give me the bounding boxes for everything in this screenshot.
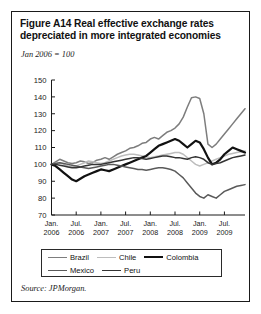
legend-swatch-peru <box>102 270 121 271</box>
legend-swatch-chile <box>97 257 116 258</box>
figure-title-line-2: depreciated in more integrated economies <box>20 30 242 42</box>
legend-item-chile[interactable]: Chile <box>97 253 136 262</box>
x-tick-label-month: Jul. <box>219 219 230 228</box>
chart-plot-area: 708090100110120130140150 Jan.2006Jul.200… <box>12 62 251 242</box>
x-tick-label-month: Jan. <box>94 219 108 228</box>
legend-swatch-colombia <box>144 256 163 258</box>
y-tick-label: 150 <box>34 76 47 85</box>
line-chart-svg: 708090100110120130140150 Jan.2006Jul.200… <box>12 62 251 242</box>
legend-item-colombia[interactable]: Colombia <box>144 253 198 262</box>
legend-item-brazil[interactable]: Brazil <box>48 253 89 262</box>
legend-row: BrazilChileColombia <box>42 251 221 264</box>
x-tick-label-month: Jul. <box>169 219 180 228</box>
legend-label: Colombia <box>166 253 198 262</box>
x-tick-label-year: 2008 <box>167 228 183 237</box>
y-axis-tick-marks <box>52 80 56 215</box>
chart-legend: BrazilChileColombiaMexicoPeru <box>41 249 222 277</box>
x-tick-label-year: 2006 <box>44 228 60 237</box>
figure-title-line-1: Figure A14 Real effective exchange rates <box>20 18 214 29</box>
x-tick-label-year: 2008 <box>142 228 158 237</box>
legend-row: MexicoPeru <box>42 264 221 277</box>
y-tick-label: 130 <box>34 110 47 119</box>
x-tick-label-month: Jan. <box>193 219 207 228</box>
y-tick-label: 110 <box>34 143 46 152</box>
x-tick-label-month: Jul. <box>71 219 82 228</box>
chart-series-group <box>52 97 246 198</box>
x-axis-tick-marks <box>52 212 225 216</box>
y-tick-label: 80 <box>38 194 46 203</box>
x-tick-label-year: 2009 <box>216 228 232 237</box>
series-line-mexico <box>52 163 246 198</box>
x-tick-label-year: 2009 <box>192 228 208 237</box>
x-tick-label-year: 2007 <box>93 228 109 237</box>
y-tick-label: 100 <box>34 160 47 169</box>
legend-label: Brazil <box>70 253 89 262</box>
y-tick-label: 140 <box>34 93 47 102</box>
x-tick-label-month: Jan. <box>144 219 158 228</box>
x-axis-tick-labels: Jan.2006Jul.2006Jan.2007Jul.2007Jan.2008… <box>44 219 233 237</box>
y-axis-tick-labels: 708090100110120130140150 <box>34 76 47 220</box>
y-tick-label: 120 <box>34 126 47 135</box>
legend-label: Chile <box>119 253 136 262</box>
y-tick-label: 90 <box>38 177 46 186</box>
source-note: Source: JPMorgan. <box>21 284 86 293</box>
x-tick-label-year: 2006 <box>68 228 84 237</box>
x-tick-label-month: Jul. <box>120 219 131 228</box>
legend-item-mexico[interactable]: Mexico <box>48 266 94 275</box>
legend-label: Peru <box>124 266 140 275</box>
figure-title: Figure A14 Real effective exchange rates… <box>20 18 242 43</box>
legend-label: Mexico <box>70 266 94 275</box>
x-tick-label-month: Jan. <box>45 219 59 228</box>
legend-item-peru[interactable]: Peru <box>102 266 140 275</box>
x-tick-label-year: 2007 <box>118 228 134 237</box>
legend-swatch-mexico <box>48 270 67 271</box>
figure-panel: Figure A14 Real effective exchange rates… <box>11 11 250 302</box>
index-base-note: Jan 2006 = 100 <box>21 50 74 59</box>
legend-swatch-brazil <box>48 257 67 258</box>
